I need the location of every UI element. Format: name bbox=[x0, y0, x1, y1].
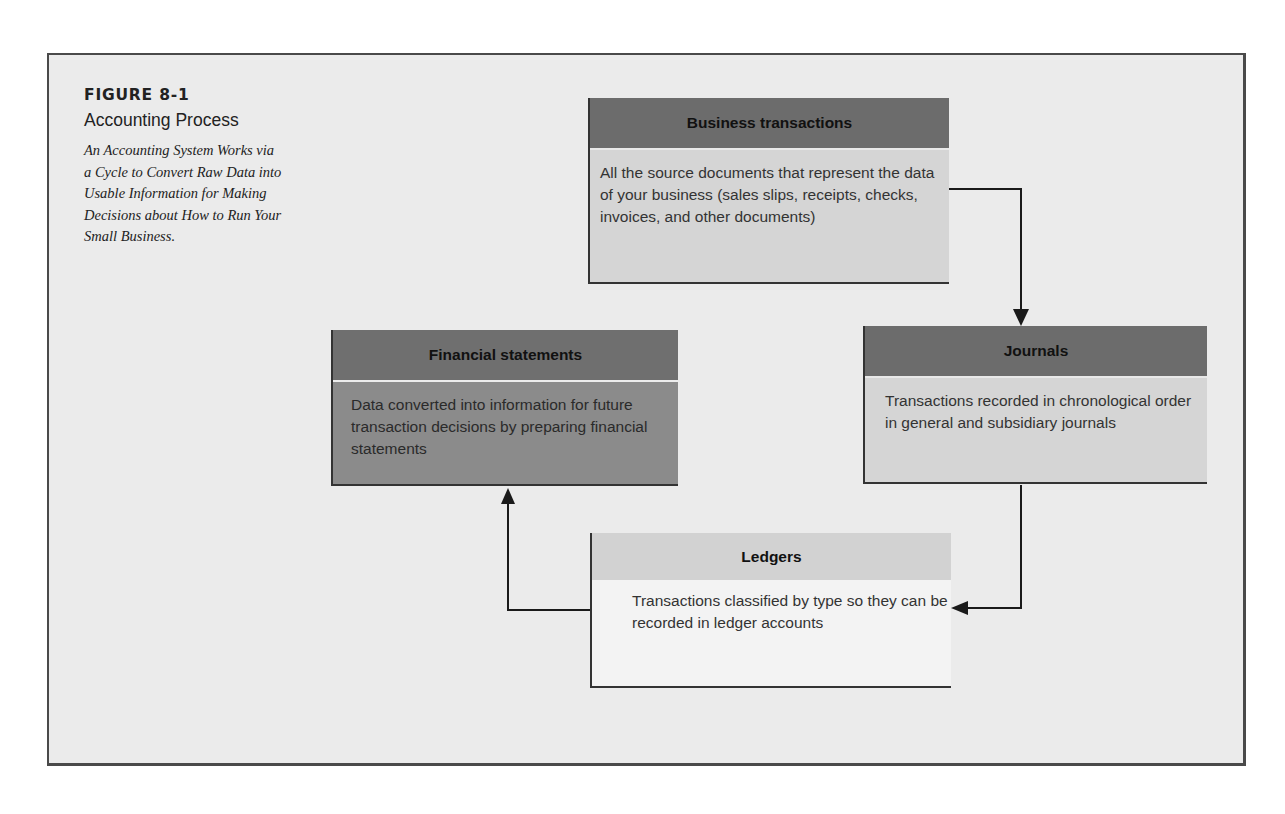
edge-business-to-journals bbox=[949, 189, 1029, 326]
arrowhead-down-icon bbox=[1013, 309, 1029, 326]
edge-ledgers-to-financial-statements bbox=[501, 488, 590, 610]
arrowhead-up-icon bbox=[501, 488, 515, 504]
connectors bbox=[0, 0, 1285, 814]
arrowhead-left-icon bbox=[951, 601, 968, 615]
edge-journals-to-ledgers bbox=[951, 485, 1021, 615]
